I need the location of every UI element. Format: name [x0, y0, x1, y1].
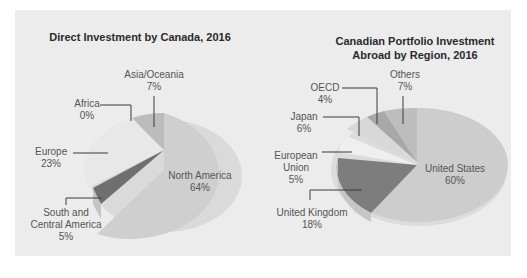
label-pct: 5%	[28, 231, 104, 243]
label-name-line1: European	[272, 150, 320, 162]
label-pct: 60%	[418, 175, 492, 187]
label-name: Others	[388, 69, 422, 81]
label-pct: 64%	[165, 182, 235, 194]
label-name: Europe	[35, 146, 67, 158]
label-name-line2: Union	[272, 162, 320, 174]
label-name: North America	[165, 170, 235, 182]
label-africa: Africa 0%	[72, 98, 102, 122]
label-japan: Japan 6%	[288, 111, 320, 135]
label-name: United States	[418, 163, 492, 175]
label-pct: 18%	[272, 219, 352, 231]
label-pct: 23%	[35, 158, 67, 170]
label-united-kingdom: United Kingdom 18%	[272, 207, 352, 231]
label-south-central-america: South and Central America 5%	[28, 207, 104, 243]
label-pct: 7%	[124, 81, 184, 93]
title-line2: Abroad by Region, 2016	[330, 48, 500, 62]
right-pie	[310, 88, 508, 226]
label-others: Others 7%	[388, 69, 422, 93]
label-pct: 0%	[72, 110, 102, 122]
label-oecd: OECD 4%	[310, 82, 340, 106]
label-asia-oceania: Asia/Oceania 7%	[124, 69, 184, 93]
title-line1: Canadian Portfolio Investment	[330, 34, 500, 48]
label-europe: Europe 23%	[35, 146, 67, 170]
label-name: Asia/Oceania	[124, 69, 184, 81]
right-chart-title: Canadian Portfolio Investment Abroad by …	[330, 34, 500, 62]
label-pct: 6%	[288, 123, 320, 135]
label-name: Africa	[72, 98, 102, 110]
label-name: Japan	[288, 111, 320, 123]
label-name: OECD	[310, 82, 340, 94]
left-chart-title: Direct Investment by Canada, 2016	[20, 30, 260, 44]
label-pct: 4%	[310, 94, 340, 106]
label-european-union: European Union 5%	[272, 150, 320, 186]
label-pct: 7%	[388, 81, 422, 93]
label-name-line1: South and	[28, 207, 104, 219]
label-north-america: North America 64%	[165, 170, 235, 194]
label-united-states: United States 60%	[418, 163, 492, 187]
label-name: United Kingdom	[272, 207, 352, 219]
label-pct: 5%	[272, 174, 320, 186]
label-name-line2: Central America	[28, 219, 104, 231]
